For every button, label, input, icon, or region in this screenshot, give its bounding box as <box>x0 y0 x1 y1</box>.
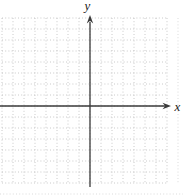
y-axis-label: y <box>83 0 91 13</box>
x-axis-label: x <box>174 99 181 114</box>
coordinate-plane: y x <box>0 0 183 195</box>
coordinate-plane-figure: y x <box>0 0 183 195</box>
